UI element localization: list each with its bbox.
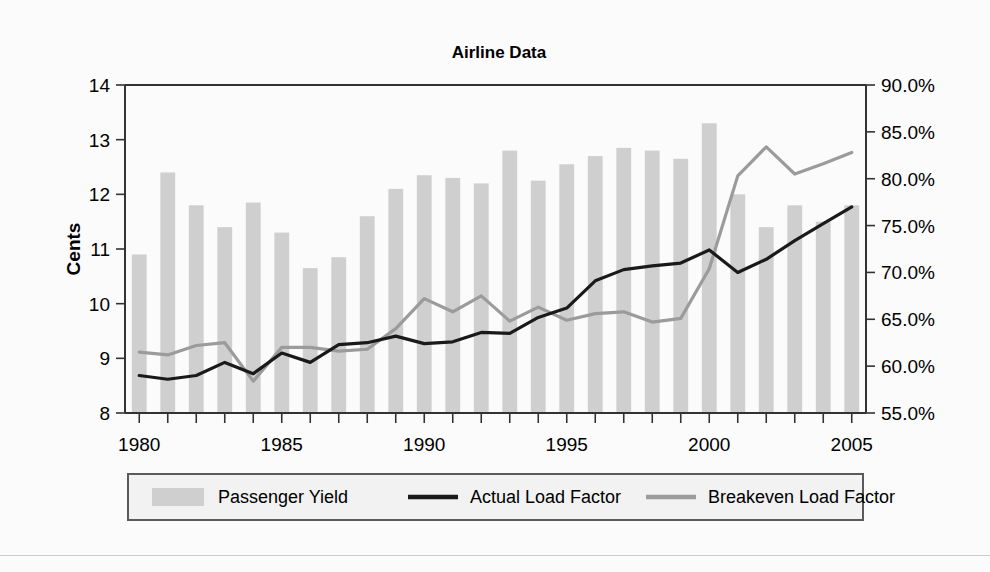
y2tick-label-55.0%: 55.0% (881, 403, 935, 424)
ytick-label-13: 13 (89, 130, 110, 151)
chart-title: Airline Data (452, 43, 547, 62)
xtick-label-2000: 2000 (688, 434, 730, 455)
bar-1998 (645, 151, 660, 413)
y2tick-label-75.0%: 75.0% (881, 216, 935, 237)
y2-axis-tick-labels: 55.0%60.0%65.0%70.0%75.0%80.0%85.0%90.0% (881, 75, 935, 424)
x-axis-tick-labels: 198019851990199520002005 (118, 434, 873, 455)
bar-1993 (502, 151, 517, 413)
y2tick-label-90.0%: 90.0% (881, 75, 935, 96)
ytick-label-12: 12 (89, 184, 110, 205)
bar-1991 (445, 178, 460, 413)
legend-label-actual-load-factor: Actual Load Factor (470, 487, 621, 507)
y2tick-label-80.0%: 80.0% (881, 169, 935, 190)
bottom-divider (0, 555, 990, 556)
bar-1987 (331, 257, 346, 413)
y-axis-tick-labels: 891011121314 (89, 75, 111, 424)
bar-1990 (417, 175, 432, 413)
legend-swatch-passenger-yield (152, 488, 204, 506)
bar-1997 (616, 148, 631, 413)
legend-label-breakeven-load-factor: Breakeven Load Factor (708, 487, 895, 507)
xtick-label-1995: 1995 (546, 434, 588, 455)
bar-1986 (303, 268, 318, 413)
bar-1982 (189, 205, 204, 413)
bar-1983 (217, 227, 232, 413)
bar-1985 (274, 233, 289, 413)
bar-1994 (531, 181, 546, 413)
bar-2005 (844, 205, 859, 413)
y2tick-label-85.0%: 85.0% (881, 122, 935, 143)
bar-1995 (559, 164, 574, 413)
y2tick-label-60.0%: 60.0% (881, 356, 935, 377)
ytick-label-11: 11 (90, 239, 110, 260)
y2tick-label-65.0%: 65.0% (881, 309, 935, 330)
bar-1999 (673, 159, 688, 413)
y-axis-title: Cents (63, 223, 84, 276)
ytick-label-9: 9 (99, 348, 110, 369)
xtick-label-1980: 1980 (118, 434, 160, 455)
chart-figure: Airline Data Cents 891011121314 55.0%60.… (0, 0, 990, 572)
airline-data-chart: Airline Data Cents 891011121314 55.0%60.… (0, 0, 990, 572)
bar-1989 (388, 189, 403, 413)
y2tick-label-70.0%: 70.0% (881, 262, 935, 283)
xtick-label-1990: 1990 (403, 434, 445, 455)
xtick-label-1985: 1985 (261, 434, 303, 455)
bar-1980 (132, 254, 147, 413)
ytick-label-10: 10 (89, 294, 110, 315)
bar-2001 (730, 194, 745, 413)
xtick-label-2005: 2005 (831, 434, 873, 455)
bar-1981 (160, 172, 175, 413)
bar-2004 (816, 222, 831, 413)
bar-1988 (360, 216, 375, 413)
ytick-label-14: 14 (89, 75, 111, 96)
legend-label-passenger-yield: Passenger Yield (218, 487, 348, 507)
chart-legend: Passenger Yield Actual Load Factor Break… (128, 474, 895, 520)
ytick-label-8: 8 (99, 403, 110, 424)
